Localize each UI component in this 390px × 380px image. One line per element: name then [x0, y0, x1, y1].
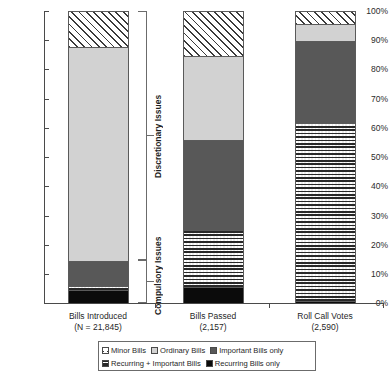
segment-ordinary-bills: [296, 24, 355, 41]
bracket-discretionary-issues: [138, 11, 147, 260]
bracket-compulsory-issues: [138, 260, 147, 303]
x-tick-mark: [383, 303, 384, 308]
x-category-count: (N = 21,845): [33, 322, 163, 333]
segment-ordinary-bills: [184, 56, 243, 140]
chart-legend: Minor Bills Ordinary Bills Important Bil…: [98, 341, 316, 371]
segment-minor-bills: [296, 12, 355, 24]
segment-important-bills-only: [296, 41, 355, 123]
x-category-label: Roll Call Votes: [297, 311, 352, 321]
y-tick-mark: [44, 11, 49, 12]
legend-row-1: Minor Bills Ordinary Bills Important Bil…: [102, 344, 312, 357]
legend-label: Important Bills only: [219, 346, 283, 355]
y-tick-mark: [44, 186, 49, 187]
x-category-label: Bills Passed: [190, 311, 236, 321]
legend-item-minor-bills: Minor Bills: [102, 346, 146, 355]
segment-minor-bills: [184, 12, 243, 56]
x-category-roll-call-votes: Roll Call Votes (2,590): [260, 311, 390, 333]
y-tick-mark: [44, 245, 49, 246]
segment-important-bills-only: [69, 261, 128, 286]
legend-label: Recurring Bills only: [215, 359, 280, 368]
y-tick-mark: [44, 216, 49, 217]
bar-roll-call-votes: [295, 11, 356, 303]
legend-item-important-bills-only: Important Bills only: [210, 346, 283, 355]
legend-swatch-recurring-plus-important-icon: [102, 360, 109, 367]
x-axis-line: [44, 303, 384, 304]
x-category-bills-passed: Bills Passed (2,157): [148, 311, 278, 333]
x-category-count: (2,590): [260, 322, 390, 333]
legend-label: Minor Bills: [111, 346, 146, 355]
bar-bills-passed: [183, 11, 244, 303]
legend-label: Ordinary Bills: [160, 346, 205, 355]
segment-ordinary-bills: [69, 47, 128, 261]
legend-swatch-ordinary-bills-icon: [151, 347, 158, 354]
x-category-bills-introduced: Bills Introduced (N = 21,845): [33, 311, 163, 333]
legend-swatch-minor-bills-icon: [102, 347, 109, 354]
legend-row-2: Recurring + Important Bills Recurring Bi…: [102, 357, 312, 370]
x-tick-mark: [269, 303, 270, 308]
x-category-count: (2,157): [148, 322, 278, 333]
x-category-label: Bills Introduced: [69, 311, 127, 321]
legend-item-ordinary-bills: Ordinary Bills: [151, 346, 205, 355]
segment-recurring-plus-important-bills: [184, 230, 243, 287]
legend-swatch-important-bills-icon: [210, 347, 217, 354]
segment-recurring-bills-only: [69, 290, 128, 304]
y-tick-mark: [44, 40, 49, 41]
segment-important-bills-only: [184, 140, 243, 230]
legend-swatch-recurring-bills-icon: [206, 360, 213, 367]
segment-recurring-bills-only: [184, 287, 243, 304]
x-tick-mark: [155, 303, 156, 308]
legend-item-recurring-bills-only: Recurring Bills only: [206, 359, 280, 368]
y-tick-mark: [44, 69, 49, 70]
legend-label: Recurring + Important Bills: [111, 359, 201, 368]
y-tick-mark: [44, 157, 49, 158]
legend-item-recurring-plus-important-bills: Recurring + Important Bills: [102, 359, 201, 368]
segment-minor-bills: [69, 12, 128, 47]
bracket-label-discretionary-issues: Discretionary Issues: [153, 98, 163, 178]
y-tick-mark: [44, 99, 49, 100]
y-tick-mark: [44, 128, 49, 129]
bar-bills-introduced: [68, 11, 129, 303]
segment-recurring-plus-important-bills: [296, 123, 355, 301]
y-tick-mark: [44, 274, 49, 275]
